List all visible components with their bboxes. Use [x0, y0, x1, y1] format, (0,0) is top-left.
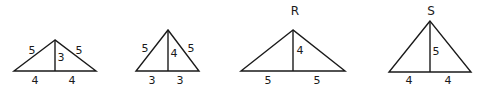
- triangle-2-left-side-label: 5: [142, 42, 149, 55]
- triangle-1-left-side-label: 5: [29, 44, 36, 57]
- triangle-1: 5 5 3 4 4: [14, 40, 96, 87]
- triangle-r-base-left-label: 5: [265, 74, 272, 87]
- triangle-2-base-right-label: 3: [177, 74, 184, 87]
- triangle-2-base-left-label: 3: [149, 74, 156, 87]
- triangle-2-right-side-label: 5: [188, 42, 195, 55]
- triangle-2: 5 5 4 3 3: [136, 30, 199, 87]
- triangle-r: R 4 5 5: [241, 4, 345, 88]
- triangle-s-name-label: S: [427, 4, 435, 18]
- triangle-1-right-side-label: 5: [76, 44, 83, 57]
- triangle-1-base-right-label: 4: [69, 74, 76, 87]
- triangle-r-name-label: R: [291, 4, 299, 18]
- triangle-1-base-left-label: 4: [32, 74, 39, 87]
- triangle-s-base-right-label: 4: [445, 74, 452, 87]
- triangles-diagram: 5 5 3 4 4 5 5 4 3 3 R 4 5 5 S 5 4 4: [0, 0, 487, 88]
- triangle-r-base-right-label: 5: [314, 74, 321, 87]
- triangle-s-altitude-label: 5: [433, 45, 440, 58]
- triangle-1-altitude-label: 3: [58, 51, 65, 64]
- triangle-s-base-left-label: 4: [406, 74, 413, 87]
- triangle-2-altitude-label: 4: [171, 47, 178, 60]
- triangle-r-altitude-label: 4: [297, 44, 304, 57]
- triangle-s: S 5 4 4: [389, 4, 471, 88]
